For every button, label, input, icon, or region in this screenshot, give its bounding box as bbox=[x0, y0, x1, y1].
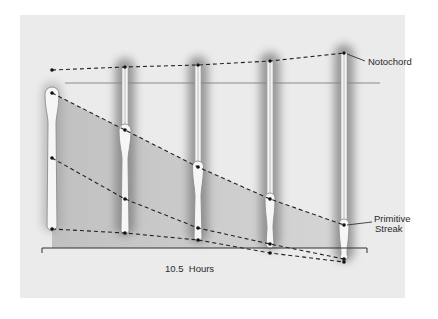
marker-dot bbox=[50, 227, 54, 231]
time-bracket bbox=[42, 248, 367, 253]
marker-dot bbox=[123, 231, 127, 235]
marker-dot bbox=[268, 197, 272, 201]
duration-label: 10.5 Hours bbox=[165, 264, 214, 274]
marker-dot bbox=[342, 223, 346, 227]
embryo-stage bbox=[115, 58, 135, 236]
marker-dot bbox=[50, 156, 54, 160]
marker-dot bbox=[268, 242, 272, 246]
marker-dot bbox=[342, 260, 346, 264]
embryo-stage bbox=[334, 44, 354, 262]
marker-dot bbox=[123, 197, 127, 201]
marker-dot bbox=[123, 128, 127, 132]
primitive-streak-label: Primitive Streak bbox=[374, 214, 410, 234]
embryo-stage bbox=[260, 52, 280, 250]
embryo-development-diagram bbox=[0, 0, 438, 319]
primitive-streak-label-line2: Streak bbox=[374, 224, 410, 234]
notochord-label: Notochord bbox=[368, 57, 412, 67]
marker-dot bbox=[196, 165, 200, 169]
marker-dot bbox=[50, 68, 54, 72]
marker-dot bbox=[123, 65, 127, 69]
marker-dot bbox=[268, 251, 272, 255]
marker-dot bbox=[196, 226, 200, 230]
marker-dot bbox=[196, 63, 200, 67]
marker-dot bbox=[342, 51, 346, 55]
marker-dot bbox=[268, 59, 272, 63]
embryo-stage bbox=[188, 56, 208, 243]
marker-dot bbox=[50, 91, 54, 95]
marker-dot bbox=[196, 238, 200, 242]
